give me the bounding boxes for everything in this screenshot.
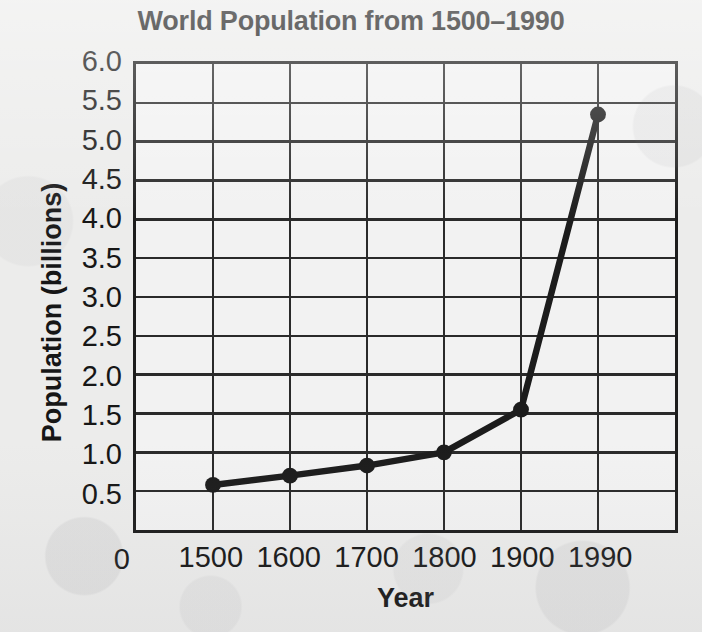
- line-chart-figure: World Population from 1500–1990 Populati…: [0, 0, 702, 632]
- x-tick-label: 1900: [490, 541, 555, 574]
- y-tick-label: 2.5: [82, 320, 122, 353]
- x-tick-label: 1700: [334, 541, 399, 574]
- y-tick-label: 5.0: [82, 123, 122, 156]
- data-point: [359, 458, 375, 474]
- y-tick-label: 1.5: [82, 399, 122, 432]
- data-series-world-population: [136, 64, 675, 530]
- data-point: [513, 402, 529, 418]
- x-tick-label: 1600: [256, 541, 321, 574]
- x-axis-title: Year: [133, 583, 678, 614]
- x-tick-label: 1500: [179, 541, 244, 574]
- y-tick-label: 1.0: [82, 438, 122, 471]
- data-point: [205, 477, 221, 493]
- x-tick-label: 1800: [412, 541, 477, 574]
- y-tick-label: 2.0: [82, 359, 122, 392]
- y-axis-tick-labels: 6.05.55.04.54.03.53.02.52.01.51.00.50: [0, 0, 126, 632]
- y-tick-label: 3.0: [82, 281, 122, 314]
- x-tick-label: 1990: [568, 541, 633, 574]
- y-tick-label: 4.0: [82, 202, 122, 235]
- y-tick-label: 4.5: [82, 163, 122, 196]
- x-axis-tick-labels: 150016001700180019001990: [0, 541, 702, 581]
- data-point: [282, 468, 298, 484]
- y-tick-label: 6.0: [82, 45, 122, 78]
- y-tick-label: 3.5: [82, 241, 122, 274]
- data-point: [590, 107, 606, 123]
- data-point: [436, 444, 452, 460]
- plot-area: [133, 61, 678, 533]
- y-tick-label: 0.5: [82, 477, 122, 510]
- y-tick-label: 5.5: [82, 84, 122, 117]
